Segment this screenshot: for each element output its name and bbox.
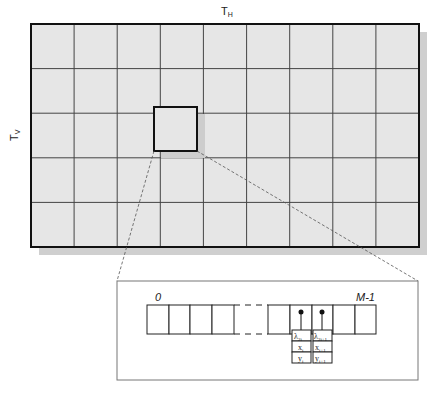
diagram-canvas: TH TV 0 M-1 λ2i xi yi λ2i+ xyxy=(0,0,432,393)
top-label: TH xyxy=(221,5,233,18)
record-right: λ2i+1 xi+1 yi+1 xyxy=(313,330,332,364)
highlighted-tile xyxy=(154,107,197,151)
end-index-label: M-1 xyxy=(356,291,375,303)
side-label: TV xyxy=(8,129,21,141)
frame-background xyxy=(31,24,419,247)
start-index-label: 0 xyxy=(155,291,162,303)
record-left: λ2i xi yi xyxy=(292,330,311,364)
